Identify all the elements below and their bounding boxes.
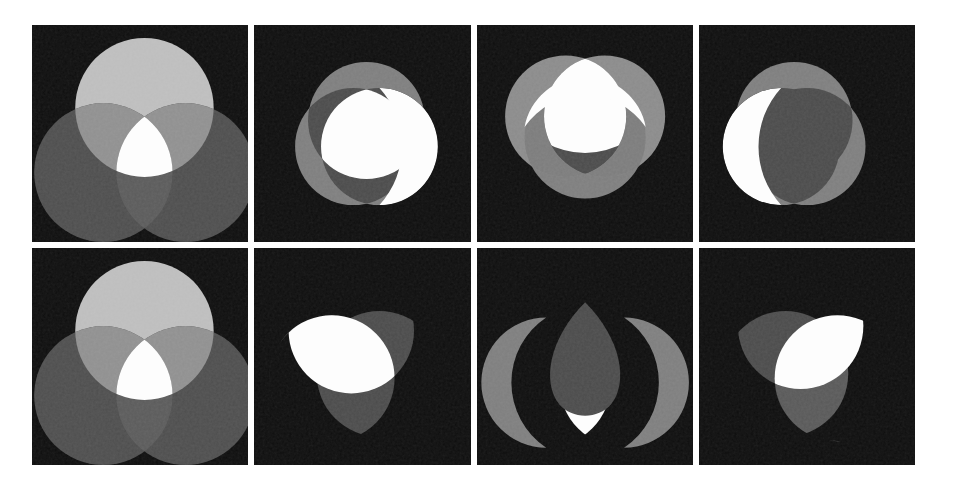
panel-three-circle-venn-repeat bbox=[32, 248, 248, 465]
panel-tight-overlap-top-white bbox=[477, 25, 693, 242]
panel-grid bbox=[32, 25, 915, 465]
crescent-left bbox=[481, 317, 546, 447]
petal-center-dark bbox=[550, 302, 620, 415]
panel-tight-overlap-right-white bbox=[254, 25, 470, 242]
panel-three-circle-venn-standard bbox=[32, 25, 248, 242]
crescent-right bbox=[624, 317, 689, 447]
panel-crescent-pinwheel-counterclockwise bbox=[699, 248, 915, 465]
panel-tight-overlap-left-white bbox=[699, 25, 915, 242]
panel-crescent-pinwheel-clockwise bbox=[254, 248, 470, 465]
panel-lotus-two-crescents bbox=[477, 248, 693, 465]
figure-canvas bbox=[0, 0, 953, 490]
